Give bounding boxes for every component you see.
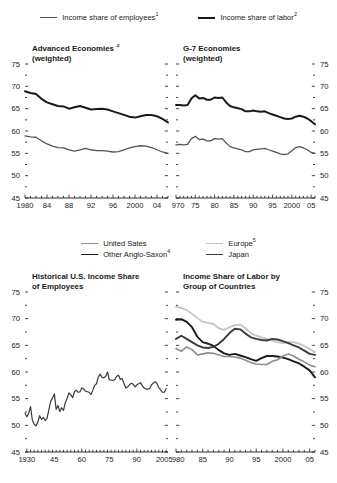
legend-label: Europe5 bbox=[228, 240, 256, 248]
legend-line-swatch bbox=[81, 254, 98, 255]
series-line bbox=[25, 136, 168, 153]
x-tick-label: 84 bbox=[43, 201, 51, 210]
y-tick-label: 45 bbox=[320, 194, 328, 203]
chart-subtitle: (weighted) bbox=[32, 54, 170, 64]
series-group bbox=[25, 91, 168, 153]
y-tick-label: 65 bbox=[12, 341, 20, 350]
x-tick-label: 2000 bbox=[274, 455, 291, 464]
y-tick-label: 55 bbox=[320, 149, 328, 158]
x-tick-label: 60 bbox=[78, 455, 86, 464]
y-tick-label: 75 bbox=[12, 60, 20, 69]
y-axis-labels: 45505560657075 bbox=[12, 60, 20, 203]
series-group bbox=[25, 372, 166, 426]
y-tick-label: 50 bbox=[320, 421, 328, 430]
y-tick-label: 60 bbox=[12, 368, 20, 377]
x-axis-ticks bbox=[176, 195, 315, 198]
x-axis-labels: 198084889296200004 bbox=[17, 201, 162, 210]
y-tick-label: 45 bbox=[320, 448, 328, 457]
x-tick-label: 80 bbox=[210, 201, 218, 210]
chart-title: Income Share of Labor byGroup of Countri… bbox=[183, 272, 334, 291]
chart-subtitle: Group of Countries bbox=[183, 282, 334, 292]
legend-line-swatch bbox=[81, 243, 98, 244]
chart-svg-g7-economies: G-7 Economies(weighted)45505560657075197… bbox=[172, 44, 336, 214]
y-tick-label: 70 bbox=[12, 82, 20, 91]
middle-legend: United SatesOther Anglo-Saxon4 Europe5Ja… bbox=[0, 240, 337, 258]
series-line bbox=[176, 136, 315, 154]
chart-svg-historical-us-income-share: Historical U.S. Income Shareof Employees… bbox=[4, 272, 172, 468]
figure-income-share-charts: Income share of employees1Income share o… bbox=[0, 0, 337, 483]
x-tick-label: 90 bbox=[133, 455, 141, 464]
y-axis-labels: 45505560657075 bbox=[12, 288, 20, 457]
chart-title: G-7 Economies(weighted) bbox=[183, 44, 334, 63]
x-tick-label: 75 bbox=[105, 455, 113, 464]
chart-panel-historical-us-income-share: Historical U.S. Income Shareof Employees… bbox=[4, 272, 172, 468]
x-tick-label: 1980 bbox=[17, 201, 34, 210]
y-tick-label: 65 bbox=[320, 104, 328, 113]
y-tick-label: 50 bbox=[12, 421, 20, 430]
legend-label: Other Anglo-Saxon4 bbox=[103, 251, 170, 259]
x-tick-label: 75 bbox=[191, 201, 199, 210]
series-line bbox=[25, 372, 166, 426]
x-tick-label: 88 bbox=[65, 201, 73, 210]
x-tick-label: 2000 bbox=[127, 201, 144, 210]
y-tick-label: 55 bbox=[12, 149, 20, 158]
y-tick-label: 70 bbox=[320, 82, 328, 91]
y-axis-labels: 45505560657075 bbox=[320, 288, 328, 457]
x-tick-label: 04 bbox=[153, 201, 161, 210]
y-tick-label: 50 bbox=[320, 171, 328, 180]
y-tick-label: 65 bbox=[12, 104, 20, 113]
legend-footnote-marker: 5 bbox=[253, 237, 256, 243]
x-axis-labels: 1980859095200005 bbox=[172, 455, 314, 464]
top-legend: Income share of employees1Income share o… bbox=[0, 14, 337, 22]
x-tick-label: 05 bbox=[305, 455, 313, 464]
x-tick-label: 95 bbox=[252, 455, 260, 464]
chart-subtitle: of Employees bbox=[32, 282, 170, 292]
chart-subtitle: (weighted) bbox=[183, 54, 334, 64]
x-tick-label: 85 bbox=[230, 201, 238, 210]
x-tick-label: 85 bbox=[199, 455, 207, 464]
y-tick-label: 60 bbox=[320, 368, 328, 377]
legend-line-swatch bbox=[206, 243, 223, 244]
series-group bbox=[176, 307, 315, 377]
series-line bbox=[25, 91, 168, 122]
x-tick-label: 92 bbox=[87, 201, 95, 210]
x-axis-ticks bbox=[25, 195, 168, 198]
y-axis-ticks bbox=[176, 64, 315, 198]
y-tick-label: 70 bbox=[12, 314, 20, 323]
legend-label: Japan bbox=[228, 251, 249, 259]
series-group bbox=[176, 95, 315, 154]
chart-title-footnote-marker: 3 bbox=[116, 44, 119, 48]
legend-line-swatch bbox=[40, 17, 57, 18]
x-axis-labels: 1930456075902005 bbox=[18, 455, 172, 464]
legend-label: Income share of labor2 bbox=[220, 14, 296, 22]
y-tick-label: 65 bbox=[320, 341, 328, 350]
x-tick-label: 05 bbox=[307, 201, 315, 210]
legend-line-swatch bbox=[206, 254, 223, 255]
middle-legend-item: United Sates bbox=[81, 240, 170, 248]
x-tick-label: 1930 bbox=[18, 455, 35, 464]
x-axis-ticks bbox=[27, 449, 166, 452]
chart-title: Advanced Economies 3(weighted) bbox=[32, 44, 170, 63]
y-tick-label: 60 bbox=[320, 127, 328, 136]
chart-panel-g7-economies: G-7 Economies(weighted)45505560657075197… bbox=[172, 44, 336, 214]
top-legend-item: Income share of employees1 bbox=[40, 14, 158, 22]
legend-footnote-marker: 1 bbox=[155, 11, 158, 17]
chart-panel-income-share-labor-by-group: Income Share of Labor byGroup of Countri… bbox=[172, 272, 336, 468]
x-tick-label: 95 bbox=[268, 201, 276, 210]
x-tick-label: 45 bbox=[50, 455, 58, 464]
x-axis-labels: 19707580859095200005 bbox=[172, 201, 315, 210]
chart-svg-advanced-economies: Advanced Economies 3(weighted)4550556065… bbox=[4, 44, 172, 214]
y-tick-label: 55 bbox=[320, 394, 328, 403]
y-tick-label: 55 bbox=[12, 394, 20, 403]
y-axis-ticks bbox=[25, 64, 168, 198]
x-tick-label: 1970 bbox=[172, 201, 184, 210]
legend-line-swatch bbox=[198, 17, 215, 19]
series-line bbox=[176, 95, 315, 124]
x-tick-label: 2005 bbox=[156, 455, 172, 464]
y-tick-label: 75 bbox=[12, 288, 20, 297]
middle-legend-item: Japan bbox=[206, 251, 256, 259]
chart-panel-advanced-economies: Advanced Economies 3(weighted)4550556065… bbox=[4, 44, 172, 214]
x-tick-label: 90 bbox=[225, 455, 233, 464]
x-tick-label: 96 bbox=[109, 201, 117, 210]
y-tick-label: 75 bbox=[320, 60, 328, 69]
